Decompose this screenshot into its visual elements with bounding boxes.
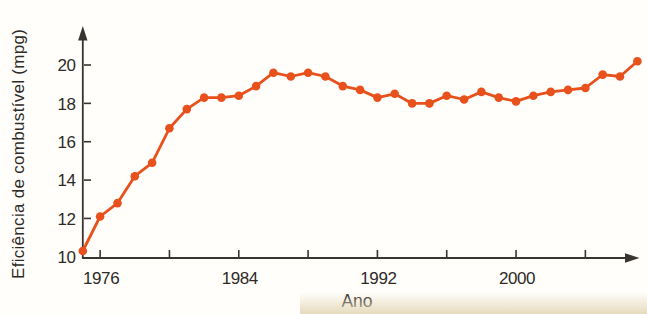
data-point <box>425 99 434 108</box>
data-point <box>183 105 192 114</box>
data-point <box>546 88 555 97</box>
data-point <box>131 172 140 181</box>
data-point <box>564 86 573 95</box>
data-point <box>321 72 330 81</box>
y-tick-label: 18 <box>57 95 75 114</box>
data-point <box>408 99 417 108</box>
data-point <box>494 93 503 102</box>
data-point <box>96 212 105 221</box>
data-point <box>477 88 486 97</box>
data-point <box>252 82 261 91</box>
data-point <box>442 91 451 100</box>
x-tick-label: 2000 <box>499 269 535 288</box>
y-tick-label: 16 <box>57 133 75 152</box>
x-axis-title: Ano <box>326 291 388 312</box>
data-point <box>235 91 244 100</box>
x-tick-label: 1984 <box>222 269 258 288</box>
data-point <box>339 82 348 91</box>
data-point <box>633 57 642 66</box>
data-point <box>356 86 365 95</box>
data-point <box>512 97 521 106</box>
data-point <box>373 93 382 102</box>
data-point <box>581 84 590 93</box>
data-point <box>217 93 226 102</box>
data-point <box>165 124 174 133</box>
data-point <box>269 68 278 77</box>
x-tick-label: 1976 <box>83 269 119 288</box>
x-axis-arrowhead-icon <box>625 253 640 263</box>
data-point <box>148 159 157 168</box>
data-point <box>529 91 538 100</box>
data-point <box>460 95 469 104</box>
data-point <box>113 199 122 208</box>
y-tick-label: 10 <box>57 248 75 267</box>
x-tick-label: 1992 <box>360 269 396 288</box>
y-axis-arrowhead-icon <box>78 26 87 41</box>
y-tick-label: 12 <box>57 210 75 229</box>
data-point <box>79 247 88 256</box>
y-tick-label: 20 <box>57 56 75 75</box>
data-point <box>200 93 209 102</box>
y-tick-label: 14 <box>57 171 75 190</box>
fuel-efficiency-time-plot: 1012141618201976198419922000 Eficiência … <box>0 0 647 314</box>
data-point <box>287 72 296 81</box>
y-axis-title: Eficiência de combustível (mpg) <box>9 6 29 302</box>
data-point <box>598 70 607 79</box>
data-point <box>304 68 313 77</box>
chart-canvas: 1012141618201976198419922000 <box>0 0 647 314</box>
data-point <box>616 72 625 81</box>
data-point <box>390 90 399 99</box>
